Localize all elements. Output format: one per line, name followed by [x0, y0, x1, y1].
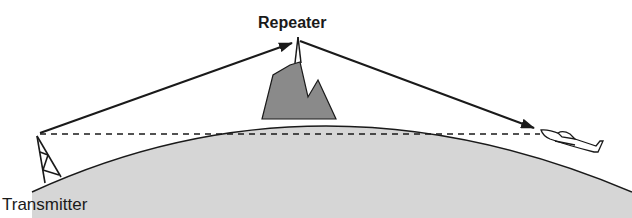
- repeater-label: Repeater: [258, 14, 326, 32]
- transmitter-tower: [37, 136, 61, 183]
- aircraft: [541, 130, 603, 152]
- repeater-diagram: [0, 0, 632, 218]
- signal-path-uplink: [40, 43, 292, 133]
- transmitter-label: Transmitter: [2, 195, 87, 215]
- mountain: [262, 62, 336, 119]
- signal-path-downlink: [300, 41, 534, 128]
- earth-curve: [32, 126, 632, 218]
